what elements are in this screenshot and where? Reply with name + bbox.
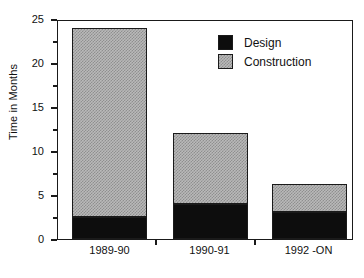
bar-group-1989-90 <box>72 28 147 239</box>
bar-segment-construction-1990-91 <box>173 133 248 203</box>
y-tick-label-20: 20 <box>22 58 44 69</box>
bar-segment-design-1992-on <box>272 212 347 239</box>
bar-group-1992-on <box>272 184 347 239</box>
y-axis-tick-labels: 25 20 15 10 5 0 <box>10 0 44 278</box>
legend-swatch-construction-icon <box>218 54 233 69</box>
y-tick-label-10: 10 <box>22 146 44 157</box>
bar-segment-construction-1989-90 <box>72 28 147 217</box>
bar-segment-design-1989-90 <box>72 217 147 239</box>
bar-segment-design-1990-91 <box>173 204 248 239</box>
bar-group-1990-91 <box>173 133 248 239</box>
legend-label-construction: Construction <box>244 56 311 68</box>
x-category-label-1989-90: 1989-90 <box>72 244 147 256</box>
plot-area: Design Construction <box>57 20 353 240</box>
x-category-label-1992-on: 1992 -ON <box>271 244 346 256</box>
legend-item-construction: Construction <box>218 53 311 70</box>
y-tick-label-5: 5 <box>22 190 44 201</box>
legend: Design Construction <box>218 34 311 72</box>
bar-segment-construction-1992-on <box>272 184 347 212</box>
legend-swatch-design-icon <box>218 35 233 50</box>
y-tick-label-0: 0 <box>22 234 44 245</box>
x-category-label-1990-91: 1990-91 <box>172 244 247 256</box>
y-tick-label-25: 25 <box>22 14 44 25</box>
x-tick-1 <box>155 240 157 245</box>
bar-chart: Time in Months 25 20 15 10 5 0 <box>0 0 364 278</box>
y-tick-label-15: 15 <box>22 102 44 113</box>
legend-label-design: Design <box>244 37 281 49</box>
legend-item-design: Design <box>218 34 311 51</box>
x-tick-2 <box>254 240 256 245</box>
